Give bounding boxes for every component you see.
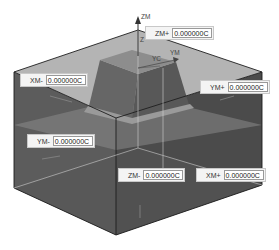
drag-grip-icon[interactable] (30, 136, 33, 146)
xm-minus-input[interactable]: 0.000000C (46, 75, 86, 85)
field-label: YM- (37, 138, 50, 145)
zm-plus-field[interactable]: ZM+ 0.000000C (145, 26, 214, 40)
field-label: YM+ (210, 84, 225, 91)
xm-plus-input[interactable]: 0.000000C (224, 170, 264, 180)
ym-minus-input[interactable]: 0.000000C (53, 136, 93, 146)
xm-plus-field[interactable]: XM+ 0.000000C (196, 168, 266, 182)
field-label: XM- (30, 77, 43, 84)
zm-minus-field[interactable]: ZM- 0.000000C (118, 168, 185, 182)
ym-plus-input[interactable]: 0.000000C (228, 82, 268, 92)
axis-label-zc: Z (140, 36, 144, 43)
drag-grip-icon[interactable] (199, 170, 202, 180)
xm-minus-field[interactable]: XM- 0.000000C (20, 73, 88, 87)
field-label: XM+ (206, 172, 221, 179)
drag-grip-icon[interactable] (148, 28, 151, 38)
axis-label-ym: YM (170, 49, 180, 56)
axis-label-zm: ZM (141, 13, 150, 20)
drag-grip-icon[interactable] (203, 82, 206, 92)
drag-grip-icon[interactable] (23, 75, 26, 85)
ym-plus-field[interactable]: YM+ 0.000000C (200, 80, 270, 94)
field-label: ZM- (128, 172, 140, 179)
zm-minus-input[interactable]: 0.000000C (143, 170, 183, 180)
ym-minus-field[interactable]: YM- 0.000000C (27, 134, 95, 148)
drag-grip-icon[interactable] (121, 170, 124, 180)
axis-label-yc: YC (152, 55, 161, 62)
field-label: ZM+ (155, 30, 169, 37)
zm-plus-input[interactable]: 0.000000C (172, 28, 212, 38)
